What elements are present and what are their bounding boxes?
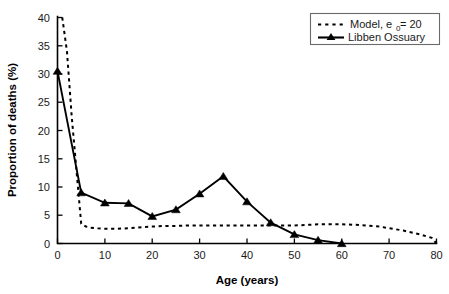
y-tick-label: 40 <box>38 12 50 24</box>
axis-frame <box>58 17 437 244</box>
data-point-marker <box>53 67 62 74</box>
x-tick-label: 60 <box>336 249 348 261</box>
chart-figure: 0 5 10 15 20 25 30 35 40 0 10 20 30 40 5… <box>0 0 449 294</box>
x-tick-label: 20 <box>146 249 158 261</box>
y-tick-label: 30 <box>38 68 50 80</box>
y-tick-label: 35 <box>38 40 50 52</box>
x-tick-label: 70 <box>383 249 395 261</box>
legend-label-model-main: Model, e <box>350 18 392 30</box>
series-markers-libben-ossuary <box>53 67 346 246</box>
data-point-marker <box>219 172 228 179</box>
x-axis-tick-labels: 0 10 20 30 40 50 60 70 80 <box>54 249 442 261</box>
y-axis-tick-labels: 0 5 10 15 20 25 30 35 40 <box>38 12 50 250</box>
data-point-marker <box>290 231 299 238</box>
y-tick-label: 5 <box>44 209 50 221</box>
x-tick-label: 30 <box>193 249 205 261</box>
series-line-libben-ossuary <box>58 71 342 243</box>
legend-label-libben: Libben Ossuary <box>348 31 426 43</box>
y-tick-label: 20 <box>38 125 50 137</box>
x-tick-label: 10 <box>99 249 111 261</box>
series-line-model <box>62 18 436 244</box>
x-tick-label: 80 <box>430 249 442 261</box>
y-tick-label: 10 <box>38 181 50 193</box>
x-tick-label: 50 <box>288 249 300 261</box>
legend-label-model-tail: = 20 <box>400 18 422 30</box>
x-tick-label: 40 <box>241 249 253 261</box>
x-tick-label: 0 <box>54 249 60 261</box>
x-axis-title: Age (years) <box>216 274 279 286</box>
chart-plot-svg: 0 5 10 15 20 25 30 35 40 0 10 20 30 40 5… <box>0 0 449 294</box>
y-axis-title: Proportion of deaths (%) <box>6 63 18 197</box>
y-tick-label: 0 <box>44 238 50 250</box>
y-tick-label: 25 <box>38 96 50 108</box>
y-tick-label: 15 <box>38 153 50 165</box>
chart-legend: Model, e 0 = 20 Libben Ossuary <box>311 14 440 45</box>
